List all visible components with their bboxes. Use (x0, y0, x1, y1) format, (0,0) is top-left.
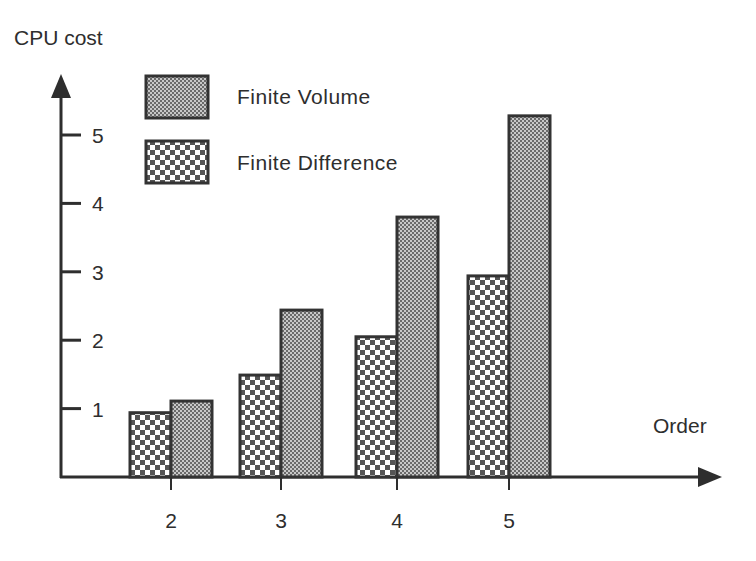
x-tick-label: 3 (275, 509, 287, 532)
legend-swatch-finite-volume (146, 76, 208, 118)
legend-label-finite-difference: Finite Difference (237, 151, 398, 174)
x-axis-label: Order (653, 414, 707, 437)
y-tick-label: 4 (92, 192, 104, 215)
bar-finite-difference-2 (130, 413, 171, 477)
x-tick-label: 4 (391, 509, 403, 532)
bar-finite-volume-5 (509, 116, 550, 477)
bar-finite-volume-3 (281, 310, 322, 477)
y-axis-label: CPU cost (14, 26, 103, 49)
y-axis-arrow-icon (51, 74, 71, 98)
x-tick-label: 2 (165, 509, 177, 532)
bar-finite-volume-4 (397, 217, 438, 477)
bar-finite-difference-3 (240, 375, 281, 477)
y-tick-label: 5 (92, 124, 104, 147)
y-tick-label: 3 (92, 261, 104, 284)
legend: Finite Volume Finite Difference (146, 76, 398, 183)
legend-swatch-finite-difference (146, 141, 208, 183)
legend-label-finite-volume: Finite Volume (237, 85, 371, 108)
y-tick-label: 1 (92, 398, 104, 421)
bar-finite-difference-4 (356, 337, 397, 477)
bar-finite-volume-2 (171, 401, 212, 477)
bar-finite-difference-5 (468, 276, 509, 477)
x-axis-arrow-icon (698, 467, 722, 487)
x-tick-label: 5 (503, 509, 515, 532)
bar-chart: CPU cost Order 12345 2345 Finite Volume … (0, 0, 756, 561)
y-tick-label: 2 (92, 329, 104, 352)
